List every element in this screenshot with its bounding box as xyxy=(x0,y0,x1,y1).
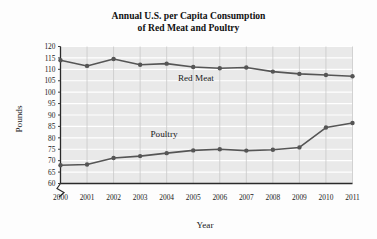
series-label-poultry: Poultry xyxy=(150,129,177,139)
data-point xyxy=(218,147,222,151)
x-tick-label: 2002 xyxy=(106,193,121,202)
data-point xyxy=(111,57,115,61)
x-tick-label: 2008 xyxy=(265,193,280,202)
data-point xyxy=(244,148,248,152)
x-tick-label: 2000 xyxy=(53,193,68,202)
y-tick-label: 75 xyxy=(48,145,56,154)
y-tick-label: 95 xyxy=(48,99,56,108)
data-point xyxy=(85,64,89,68)
y-tick-label: 60 xyxy=(48,179,56,188)
data-point xyxy=(244,65,248,69)
x-tick-label: 2010 xyxy=(319,193,334,202)
data-point xyxy=(138,63,142,67)
x-tick-label: 2009 xyxy=(292,193,307,202)
data-point xyxy=(58,163,62,167)
data-point xyxy=(164,151,168,155)
x-tick-label: 2005 xyxy=(186,193,201,202)
data-point xyxy=(58,58,62,62)
data-point xyxy=(111,156,115,160)
data-point xyxy=(271,69,275,73)
data-point xyxy=(85,162,89,166)
data-point xyxy=(297,145,301,149)
data-point xyxy=(138,154,142,158)
y-tick-label: 70 xyxy=(48,156,56,165)
series-label-red-meat: Red Meat xyxy=(178,73,214,83)
y-tick-label: 115 xyxy=(45,54,56,63)
y-tick-label: 90 xyxy=(48,111,56,120)
data-point xyxy=(164,61,168,65)
x-tick-label: 2004 xyxy=(159,193,174,202)
y-tick-label: 120 xyxy=(44,42,55,51)
x-tick-label: 2001 xyxy=(80,193,95,202)
chart-title-line-1: Annual U.S. per Capita Consumption xyxy=(112,10,267,21)
data-point xyxy=(218,66,222,70)
x-tick-label: 2007 xyxy=(239,193,254,202)
x-tick-label: 2003 xyxy=(133,193,148,202)
data-point xyxy=(324,73,328,77)
chart-title-line-2: of Red Meat and Poultry xyxy=(138,22,240,33)
y-tick-label: 80 xyxy=(48,134,56,143)
data-point xyxy=(271,148,275,152)
x-tick-label: 2011 xyxy=(345,193,360,202)
y-tick-label: 110 xyxy=(45,65,56,74)
data-point xyxy=(191,65,195,69)
data-point xyxy=(297,72,301,76)
x-axis-title: Year xyxy=(197,220,214,230)
y-tick-label: 65 xyxy=(48,168,56,177)
line-chart: 6065707580859095100105110115120 20002001… xyxy=(0,0,377,239)
chart-figure: 6065707580859095100105110115120 20002001… xyxy=(0,0,377,239)
data-point xyxy=(350,121,354,125)
x-tick-label: 2006 xyxy=(212,193,227,202)
y-tick-label: 85 xyxy=(48,122,56,131)
y-axis-title: Pounds xyxy=(14,105,24,132)
data-point xyxy=(191,148,195,152)
y-tick-label: 105 xyxy=(44,76,55,85)
data-point xyxy=(350,74,354,78)
y-tick-label: 100 xyxy=(44,88,55,97)
data-point xyxy=(324,125,328,129)
